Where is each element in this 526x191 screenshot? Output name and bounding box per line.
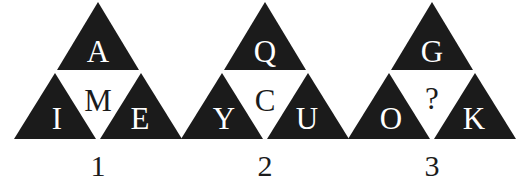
- top-subtriangle-1: [57, 2, 139, 70]
- triangle-figure-2-graphic: [181, 0, 351, 150]
- triangle-figure-1-graphic: [14, 0, 184, 150]
- triangle-figure-2: Q C Y U 2: [181, 0, 351, 191]
- triangle-figure-1: A M I E 1: [14, 0, 184, 191]
- top-subtriangle-2: [224, 2, 306, 70]
- figure-1-label: 1: [68, 151, 128, 181]
- triangle-figure-3: G ? O K 3: [348, 0, 518, 191]
- top-subtriangle-3: [391, 2, 473, 70]
- figure-2-label: 2: [235, 151, 295, 181]
- figure-3-label: 3: [402, 151, 462, 181]
- triangle-figure-3-graphic: [348, 0, 518, 150]
- puzzle-board: A M I E 1 Q C Y U 2 G ? O K 3: [0, 0, 526, 191]
